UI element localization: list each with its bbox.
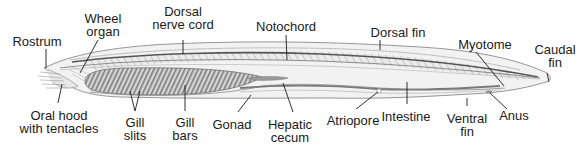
label-oral-hood: Oral hoodwith tentacles <box>20 109 99 135</box>
leader-oral-hood <box>58 84 62 103</box>
label-anus: Anus <box>499 109 529 122</box>
label-dorsal-fin: Dorsal fin <box>371 26 426 39</box>
label-ventral-fin: Ventralfin <box>447 112 487 138</box>
label-notochord: Notochord <box>256 20 316 33</box>
label-gill-bars: Gillbars <box>172 116 197 142</box>
lancelet-diagram: Rostrum Wheelorgan Dorsalnerve cord Noto… <box>0 0 584 149</box>
label-wheel-organ: Wheelorgan <box>85 12 122 38</box>
label-atriopore: Atriopore <box>327 114 380 127</box>
leader-anus <box>490 93 507 109</box>
label-intestine: Intestine <box>381 110 430 123</box>
label-myotome: Myotome <box>458 38 511 51</box>
label-rostrum: Rostrum <box>12 35 61 48</box>
label-dorsal-nerve-cord: Dorsalnerve cord <box>152 5 213 31</box>
label-gonad: Gonad <box>212 118 251 131</box>
label-gill-slits: Gillslits <box>124 116 146 142</box>
label-caudal-fin: Caudalfin <box>534 43 575 69</box>
label-hepatic-cecum: Hepaticcecum <box>268 118 312 144</box>
